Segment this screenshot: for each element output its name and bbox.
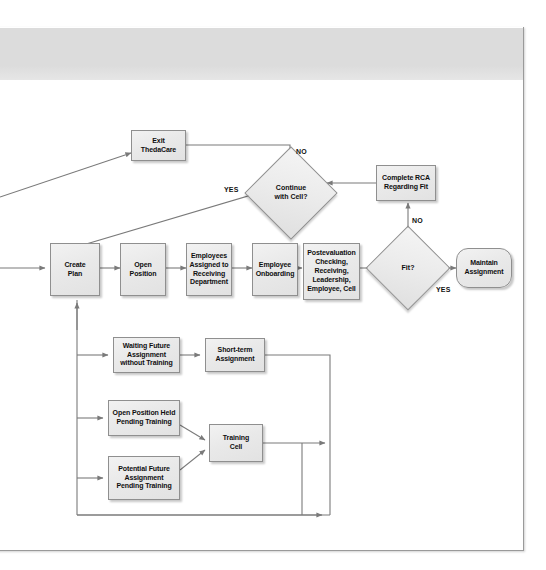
node-employee-onboarding[interactable]: Employee Onboarding — [252, 243, 298, 296]
edge-label-fit-no: NO — [412, 217, 423, 224]
node-label: Exit ThedaCare — [134, 137, 183, 155]
node-fit[interactable]: Fit? — [378, 238, 438, 298]
node-label: Maintain Assignment — [459, 259, 509, 277]
node-postevaluation[interactable]: Postevaluation Checking, Receiving, Lead… — [303, 243, 360, 300]
edge-openheld-training — [180, 425, 205, 440]
node-potential-future-assignment[interactable]: Potential Future Assignment Pending Trai… — [108, 456, 180, 500]
node-label: Training Cell — [212, 434, 260, 452]
node-waiting-future-assignment[interactable]: Waiting Future Assignment without Traini… — [113, 337, 180, 373]
node-create-plan[interactable]: Create Plan — [50, 243, 100, 296]
edge-label-fit-yes: YES — [436, 286, 451, 293]
node-label: Fit? — [402, 264, 415, 273]
node-continue-with-cell[interactable]: Continue with Cell? — [258, 160, 324, 226]
node-label: Employee Onboarding — [255, 261, 295, 279]
edge-shortterm-return — [265, 355, 330, 515]
node-label: Open Position — [123, 261, 163, 279]
edge-into-exit-thedacare — [0, 153, 131, 197]
edge-label-continue-no: NO — [296, 148, 307, 155]
node-short-term-assignment[interactable]: Short-term Assignment — [205, 338, 265, 372]
node-label: Postevaluation Checking, Receiving, Lead… — [306, 249, 357, 294]
edge-continue-yes-create-plan — [66, 193, 258, 250]
node-label: Potential Future Assignment Pending Trai… — [111, 465, 177, 492]
node-label: Open Position Held Pending Training — [111, 409, 177, 427]
flowchart-page: Exit ThedaCare Continue with Cell? Compl… — [0, 0, 546, 570]
edge-label-continue-yes: YES — [224, 186, 239, 193]
node-employees-assigned[interactable]: Employees Assigned to Receiving Departme… — [186, 243, 232, 296]
node-maintain-assignment[interactable]: Maintain Assignment — [456, 248, 512, 288]
node-label: Waiting Future Assignment without Traini… — [116, 342, 177, 369]
node-open-position[interactable]: Open Position — [120, 243, 166, 296]
edge-continue-no-exit — [186, 145, 290, 160]
edge-potential-training — [180, 450, 205, 470]
node-label: Complete RCA Regarding Fit — [379, 174, 433, 192]
node-complete-rca[interactable]: Complete RCA Regarding Fit — [376, 165, 436, 201]
node-exit-thedacare[interactable]: Exit ThedaCare — [131, 130, 186, 161]
node-label: Employees Assigned to Receiving Departme… — [189, 252, 229, 288]
node-open-position-held[interactable]: Open Position Held Pending Training — [108, 400, 180, 436]
node-training-cell[interactable]: Training Cell — [209, 424, 263, 462]
node-label: Short-term Assignment — [208, 346, 262, 364]
node-label: Continue with Cell? — [274, 184, 307, 202]
flowchart-diagram: Exit ThedaCare Continue with Cell? Compl… — [0, 0, 546, 570]
node-label: Create Plan — [53, 261, 97, 279]
